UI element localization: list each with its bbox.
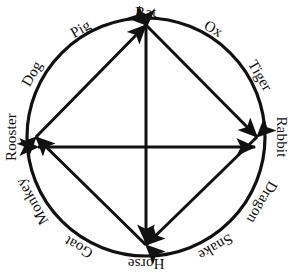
zodiac-label-ox: Ox [201, 17, 225, 40]
arrow-rooster-rat [36, 25, 146, 137]
zodiac-label-rooster: Rooster [3, 113, 19, 161]
arrow-horse-rooster [36, 137, 146, 245]
zodiac-label-goat: Goat [61, 233, 95, 262]
cross-arrow-group [38, 28, 255, 243]
arrow-rat-rabbit [146, 25, 257, 137]
zodiac-label-dog: Dog [18, 58, 45, 89]
zodiac-label-rat: Rat [135, 4, 157, 20]
zodiac-label-rabbit: Rabbit [274, 116, 290, 158]
zodiac-label-dragon: Dragon [244, 179, 281, 227]
zodiac-label-pig: Pig [68, 16, 94, 40]
zodiac-diagram: Rat Ox Tiger Rabbit Dragon Snake Horse G… [0, 0, 294, 272]
arrow-rabbit-horse [146, 137, 257, 245]
zodiac-label-horse: Horse [127, 256, 164, 272]
zodiac-figure: Rat Ox Tiger Rabbit Dragon Snake Horse G… [0, 0, 294, 272]
zodiac-label-snake: Snake [195, 231, 236, 264]
